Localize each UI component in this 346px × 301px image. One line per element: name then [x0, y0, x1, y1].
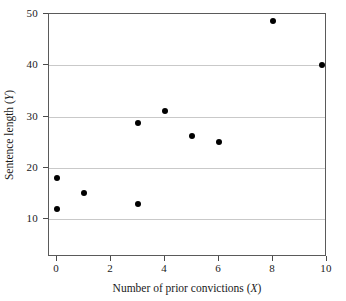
- y-tick-label: 10: [27, 213, 38, 224]
- y-tick-label: 40: [27, 59, 38, 70]
- x-tick-label: 6: [203, 263, 233, 274]
- data-point: [135, 120, 141, 126]
- x-axis-title-suffix: ): [258, 282, 262, 294]
- data-point: [54, 175, 60, 181]
- data-point: [135, 201, 141, 207]
- y-axis-title-wrapper: Sentence length (Y): [2, 13, 16, 256]
- x-tick-mark: [110, 256, 111, 261]
- plot-area: [48, 13, 326, 256]
- data-point: [319, 62, 325, 68]
- y-tick-label: 30: [27, 111, 38, 122]
- data-point: [270, 18, 276, 24]
- x-tick-mark: [164, 256, 165, 261]
- y-tick-label: 50: [27, 8, 38, 19]
- x-tick-label: 8: [257, 263, 287, 274]
- x-axis-title: Number of prior convictions (X): [48, 282, 326, 295]
- x-tick-label: 10: [311, 263, 341, 274]
- x-tick-mark: [218, 256, 219, 261]
- x-tick-label: 4: [149, 263, 179, 274]
- x-tick-label: 0: [41, 263, 71, 274]
- y-axis-title-suffix: ): [3, 89, 15, 93]
- data-point: [216, 139, 222, 145]
- x-tick-mark: [56, 256, 57, 261]
- scatter-plot-figure: Sentence length (Y) 1020304050 0246810 N…: [0, 0, 346, 301]
- gridline: [49, 65, 325, 66]
- data-point: [162, 108, 168, 114]
- gridline: [49, 168, 325, 169]
- data-point: [81, 190, 87, 196]
- x-axis-variable: X: [251, 282, 258, 294]
- data-point: [54, 206, 60, 212]
- gridline: [49, 117, 325, 118]
- x-axis-title-prefix: Number of prior convictions (: [113, 282, 251, 294]
- y-axis-variable: Y: [3, 93, 15, 99]
- x-tick-label: 2: [95, 263, 125, 274]
- y-axis-title-prefix: Sentence length (: [3, 100, 15, 180]
- y-tick-label: 20: [27, 162, 38, 173]
- y-axis-title: Sentence length (Y): [3, 89, 16, 179]
- x-tick-mark: [326, 256, 327, 261]
- gridline: [49, 219, 325, 220]
- data-point: [189, 133, 195, 139]
- x-tick-mark: [272, 256, 273, 261]
